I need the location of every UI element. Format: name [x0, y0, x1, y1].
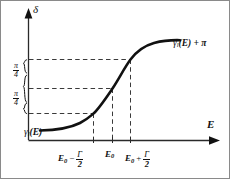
brace-group — [23, 60, 26, 114]
xtick-label-E0: E0 — [105, 150, 114, 160]
phase-shift-curve — [40, 40, 180, 130]
pi-over-4-label-upper: π 4 — [13, 62, 19, 79]
horizontal-guides-group — [29, 60, 131, 114]
two-denominator-left: 2 — [76, 159, 83, 169]
phase-shift-figure — [0, 0, 230, 179]
axes-group — [25, 8, 220, 145]
Gamma-numerator-left: Γ — [76, 150, 83, 159]
pi-numerator-lower: π — [13, 90, 19, 98]
curve-start-label: γl(E) — [24, 128, 42, 138]
xtick-label-E0-minus-half-gamma: E0−Γ2 — [58, 150, 83, 168]
figure-container: δ E γl(E) γl(E) + π π 4 π 4 E0−Γ2 E0 E0+… — [0, 0, 230, 179]
y-axis-label: δ — [33, 4, 38, 15]
gamma-over-2-right: Γ2 — [143, 150, 150, 168]
gamma-argument: (E) — [30, 127, 43, 137]
brace-upper-pi-4 — [23, 60, 26, 73]
Gamma-numerator-right: Γ — [143, 150, 150, 159]
gamma-over-2-left: Γ2 — [76, 150, 83, 168]
brace-lower-tail — [23, 103, 26, 113]
gamma-argument-end: (E) + π — [179, 38, 207, 48]
plus-operator: + — [134, 153, 143, 163]
brace-lower-pi-4 — [23, 75, 26, 102]
pi-numerator-upper: π — [13, 62, 19, 70]
x-axis-label: E — [207, 119, 214, 130]
four-denominator-lower: 4 — [13, 98, 19, 107]
y-axis-arrowhead — [25, 8, 33, 19]
vertical-guides-group — [94, 60, 131, 140]
minus-operator: − — [67, 153, 76, 163]
figure-border — [1, 1, 230, 179]
x-axis-arrowhead — [209, 136, 220, 145]
pi-over-4-label-lower: π 4 — [13, 90, 19, 107]
two-denominator-right: 2 — [143, 159, 150, 169]
curve-end-label: γl(E) + π — [173, 39, 207, 49]
E-subscript-mid: 0 — [111, 152, 114, 159]
xtick-label-E0-plus-half-gamma: E0+Γ2 — [125, 150, 150, 168]
four-denominator-upper: 4 — [13, 70, 19, 79]
